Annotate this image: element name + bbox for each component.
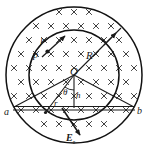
- field-cross: [11, 93, 16, 98]
- field-cross: [18, 79, 23, 84]
- field-cross: [48, 23, 53, 28]
- field-cross: [56, 9, 61, 14]
- field-cross: [71, 37, 76, 42]
- field-cross: [123, 79, 128, 84]
- field-cross: [26, 37, 31, 42]
- field-cross: [56, 65, 61, 70]
- field-cross: [101, 93, 106, 98]
- field-cross: [86, 9, 91, 14]
- field-cross: [123, 51, 128, 56]
- field-cross: [86, 121, 91, 126]
- field-cross: [78, 23, 83, 28]
- field-cross: [63, 23, 68, 28]
- field-cross: [93, 79, 98, 84]
- label-length-l: l: [40, 37, 43, 47]
- E-tau-vector-arrow: [62, 108, 80, 135]
- label-radius-r: r: [54, 99, 58, 108]
- field-cross: [78, 51, 83, 56]
- label-field-E-main: E: [66, 132, 73, 143]
- field-cross: [41, 121, 46, 126]
- label-point-P: P: [32, 52, 38, 62]
- field-cross: [93, 51, 98, 56]
- field-cross: [48, 79, 53, 84]
- field-cross: [86, 93, 91, 98]
- field-cross: [86, 37, 91, 42]
- label-point-b: b: [137, 106, 142, 116]
- field-cross: [131, 93, 136, 98]
- label-point-a: a: [4, 107, 9, 117]
- field-cross: [11, 65, 16, 70]
- point-r-marker: [44, 111, 47, 114]
- field-cross: [56, 121, 61, 126]
- field-cross: [63, 51, 68, 56]
- field-cross: [101, 65, 106, 70]
- field-cross: [108, 79, 113, 84]
- field-cross: [41, 93, 46, 98]
- field-cross: [86, 65, 91, 70]
- label-radius-R: R: [86, 50, 93, 61]
- field-cross: [41, 65, 46, 70]
- field-cross: [108, 23, 113, 28]
- label-field-E-subscript: τ: [73, 138, 75, 145]
- field-cross: [101, 121, 106, 126]
- physics-diagram: O R P l a b r h θ Eτ: [0, 0, 149, 158]
- field-cross: [71, 9, 76, 14]
- field-cross: [18, 51, 23, 56]
- field-cross: [131, 65, 136, 70]
- field-cross: [93, 23, 98, 28]
- field-cross: [33, 23, 38, 28]
- label-height-h: h: [76, 91, 81, 100]
- line-O-to-b: [74, 75, 134, 107]
- label-center-O: O: [70, 66, 78, 77]
- field-cross: [33, 79, 38, 84]
- label-field-E: Eτ: [66, 133, 75, 146]
- label-angle-theta: θ: [63, 88, 67, 97]
- radius-arrow-head: [104, 33, 116, 45]
- field-cross: [116, 37, 121, 42]
